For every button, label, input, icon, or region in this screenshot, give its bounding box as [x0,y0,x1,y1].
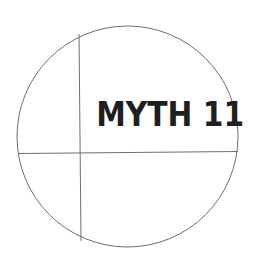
myth-title: MYTH 11 [96,98,209,132]
outer-circle [17,26,238,247]
vertical-divider [79,34,81,241]
horizontal-divider [18,152,238,154]
